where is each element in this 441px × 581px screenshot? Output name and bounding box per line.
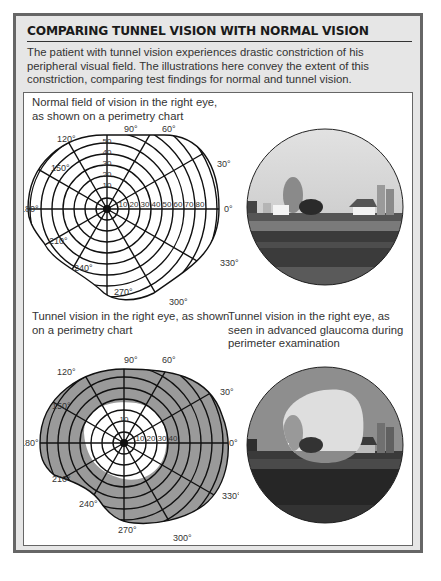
svg-text:60: 60 [174, 200, 183, 209]
svg-text:150°: 150° [52, 401, 71, 411]
svg-text:50: 50 [163, 200, 172, 209]
figures-panel: Normal field of vision in the right eye,… [23, 92, 413, 546]
tunnel-chart-caption: Tunnel vision in the right eye, as shown… [32, 310, 232, 337]
svg-text:60°: 60° [162, 355, 176, 365]
svg-text:210°: 210° [49, 236, 68, 246]
svg-text:240°: 240° [74, 263, 93, 273]
normal-perimetry-chart: 50 40 30 20 10 10 20 30 40 50 60 70 80 0… [24, 123, 239, 308]
svg-text:30: 30 [158, 434, 167, 443]
svg-text:30: 30 [103, 159, 112, 168]
svg-text:40: 40 [169, 434, 178, 443]
normal-chart-caption: Normal field of vision in the right eye,… [32, 96, 232, 123]
svg-text:180°: 180° [24, 204, 39, 214]
svg-text:20: 20 [130, 200, 139, 209]
svg-text:120°: 120° [57, 367, 76, 377]
svg-text:60°: 60° [162, 124, 176, 134]
intro-text: The patient with tunnel vision experienc… [27, 46, 412, 87]
tunnel-perimetry-chart: 10 10 20 30 40 0° 30° 60° 90° 120° 150° … [24, 355, 239, 545]
svg-text:90°: 90° [124, 124, 138, 134]
svg-text:20: 20 [147, 434, 156, 443]
svg-text:180°: 180° [24, 438, 39, 448]
svg-text:10: 10 [103, 181, 112, 190]
tunnel-vision-photo [245, 365, 405, 525]
normal-vision-photo [245, 127, 405, 287]
svg-text:0°: 0° [229, 438, 238, 448]
sidebar-box: COMPARING TUNNEL VISION WITH NORMAL VISI… [13, 13, 423, 553]
svg-text:40: 40 [103, 148, 112, 157]
svg-text:70: 70 [185, 200, 194, 209]
svg-text:120°: 120° [57, 134, 76, 144]
svg-text:80: 80 [196, 200, 205, 209]
svg-text:300°: 300° [173, 533, 192, 543]
svg-text:240°: 240° [79, 499, 98, 509]
svg-text:30°: 30° [220, 387, 234, 397]
svg-text:150°: 150° [51, 163, 70, 173]
svg-text:0°: 0° [224, 204, 233, 214]
svg-text:30: 30 [141, 200, 150, 209]
box-title: COMPARING TUNNEL VISION WITH NORMAL VISI… [27, 24, 412, 42]
svg-text:330°: 330° [220, 258, 239, 268]
svg-text:40: 40 [152, 200, 161, 209]
svg-text:270°: 270° [118, 525, 137, 535]
tunnel-photo-caption: Tunnel vision in the right eye, as seen … [228, 310, 408, 351]
svg-text:210°: 210° [52, 474, 71, 484]
svg-text:10: 10 [119, 200, 128, 209]
svg-text:20: 20 [103, 170, 112, 179]
svg-text:10: 10 [120, 415, 129, 424]
svg-text:330°: 330° [222, 491, 239, 501]
svg-text:270°: 270° [114, 287, 133, 297]
svg-text:90°: 90° [124, 355, 138, 365]
svg-text:10: 10 [136, 434, 145, 443]
svg-text:300°: 300° [169, 297, 188, 307]
svg-text:30°: 30° [217, 159, 231, 169]
svg-text:50: 50 [103, 137, 112, 146]
